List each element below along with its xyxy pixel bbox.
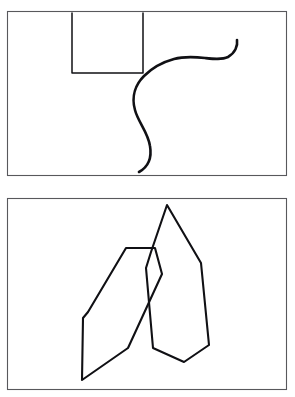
panel-bottom-frame xyxy=(8,199,287,390)
figure-root xyxy=(0,0,295,397)
s-curve xyxy=(134,40,238,172)
open-rectangle xyxy=(72,13,143,73)
panel-top-frame xyxy=(8,12,287,176)
figure-canvas xyxy=(0,0,295,397)
right-polygon xyxy=(146,205,209,362)
